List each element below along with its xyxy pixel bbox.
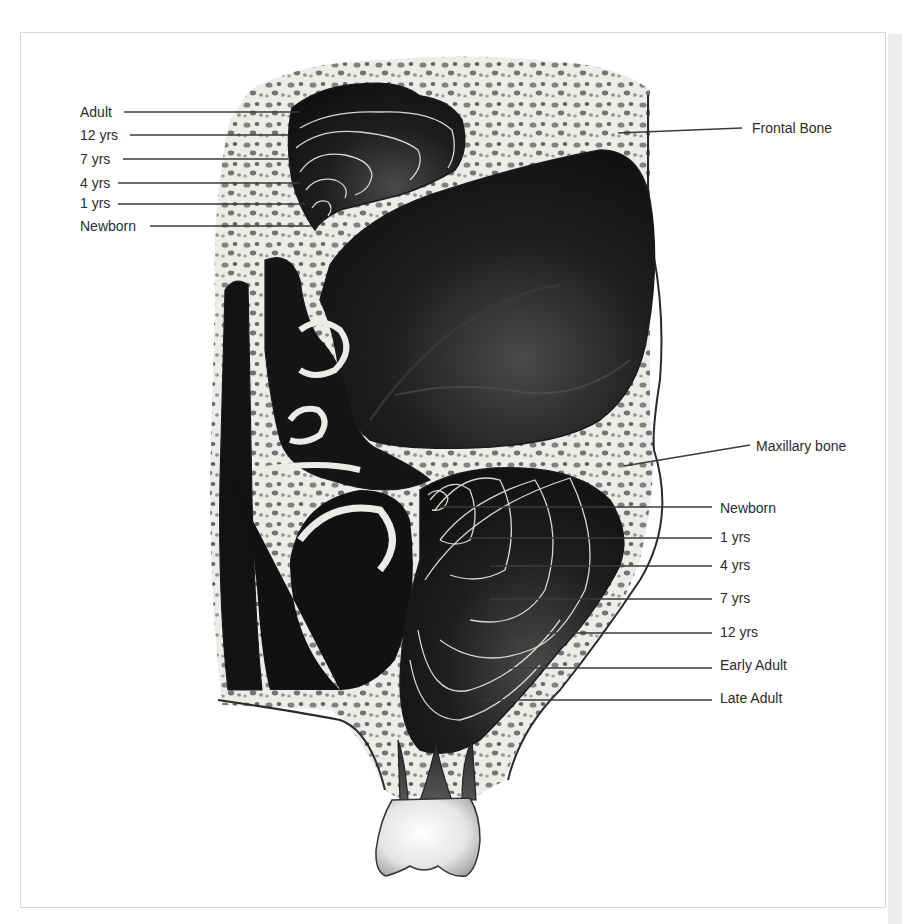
- label-maxillary-4-yrs: 4 yrs: [720, 557, 750, 573]
- label-frontal-newborn: Newborn: [80, 218, 136, 234]
- label-maxillary-newborn: Newborn: [720, 500, 776, 516]
- label-frontal-12-yrs: 12 yrs: [80, 127, 118, 143]
- label-maxillary-bone: Maxillary bone: [756, 438, 846, 454]
- label-maxillary-12-yrs: 12 yrs: [720, 624, 758, 640]
- sinus-illustration: [0, 0, 902, 924]
- label-maxillary-early-adult: Early Adult: [720, 657, 787, 673]
- label-frontal-bone: Frontal Bone: [752, 120, 832, 136]
- label-maxillary-1-yrs: 1 yrs: [720, 529, 750, 545]
- label-maxillary-7-yrs: 7 yrs: [720, 590, 750, 606]
- label-maxillary-late-adult: Late Adult: [720, 690, 782, 706]
- label-frontal-1-yrs: 1 yrs: [80, 195, 110, 211]
- label-frontal-7-yrs: 7 yrs: [80, 151, 110, 167]
- label-frontal-adult: Adult: [80, 104, 112, 120]
- label-frontal-4-yrs: 4 yrs: [80, 175, 110, 191]
